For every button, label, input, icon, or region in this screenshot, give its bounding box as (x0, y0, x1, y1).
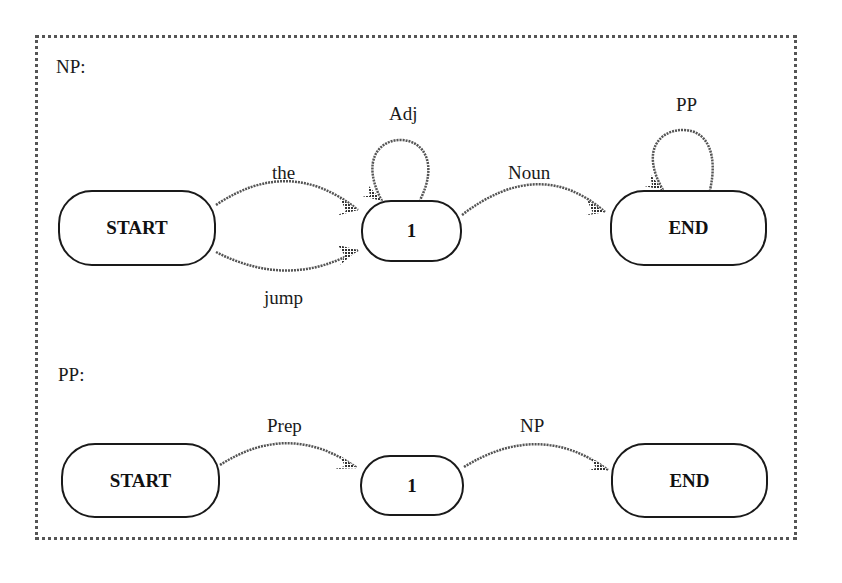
edge-label-np: NP (520, 415, 544, 437)
edge-prep (220, 443, 357, 468)
arrowhead-icon (335, 455, 357, 469)
edge-label-jump: jump (264, 287, 303, 309)
arrowhead-icon (362, 185, 382, 201)
edge-noun (462, 184, 605, 215)
np-start-node: START (58, 190, 216, 266)
edge-label-prep: Prep (267, 415, 302, 437)
edge-jump (216, 250, 358, 271)
edge-label-noun: Noun (508, 162, 550, 184)
edge-np (464, 444, 608, 470)
edge-the (216, 181, 358, 210)
pp-end-node: END (611, 443, 768, 518)
edge-adj-loop (372, 140, 428, 201)
np-end-node: END (610, 190, 767, 266)
arrowhead-icon (644, 174, 663, 190)
edge-label-pp: PP (676, 94, 697, 116)
np-state-1-node: 1 (361, 200, 462, 262)
pp-start-node: START (61, 443, 220, 518)
arrowhead-icon (338, 245, 358, 265)
pp-title: PP: (58, 364, 84, 386)
edge-pp-loop (653, 130, 713, 190)
edge-label-adj: Adj (389, 103, 418, 125)
pp-state-1-node: 1 (360, 455, 464, 516)
arrowhead-icon (583, 200, 605, 216)
edge-label-the: the (272, 162, 295, 184)
np-title: NP: (56, 56, 86, 78)
